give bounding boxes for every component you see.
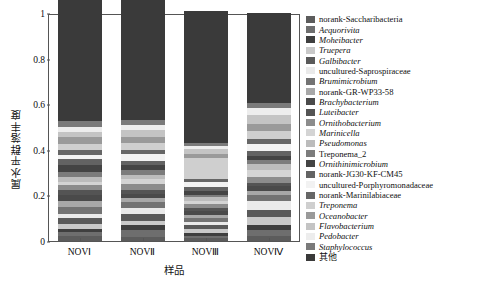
legend-item[interactable]: Truepera: [305, 45, 479, 55]
bar-segment: [247, 108, 291, 115]
plot-area: 属水平群落丰度 00.20.40.60.81 NOVⅠNOVⅡNOVⅢNOVⅣ …: [0, 0, 300, 295]
legend-item[interactable]: norank-GR-WP33-58: [305, 86, 479, 96]
legend-item[interactable]: Brumimicrobium: [305, 76, 479, 86]
x-tick-label: NOVⅣ: [254, 246, 284, 257]
bar-segment: [121, 143, 165, 151]
legend-item[interactable]: Ornithobacterium: [305, 117, 479, 127]
legend-item-label: Galbibacter: [319, 56, 361, 66]
legend-swatch-icon: [306, 119, 315, 126]
legend-item-label: Brumimicrobium: [319, 76, 377, 86]
x-tick-mark: [143, 238, 144, 242]
bar-segment: [247, 13, 291, 103]
legend-swatch-icon: [306, 150, 315, 157]
legend-item-label: Marinicella: [319, 128, 360, 138]
bar-segment: [58, 0, 102, 121]
legend-swatch-icon: [306, 78, 315, 85]
legend-swatch-icon: [306, 16, 315, 23]
legend-item-label: Ornithobacterium: [319, 118, 381, 128]
legend-item-label: norank-Saccharibacteria: [319, 14, 403, 24]
legend-item-label: Pedobacter: [319, 231, 359, 241]
legend-item-label: Aequorivita: [319, 25, 360, 35]
x-tick-mark: [80, 238, 81, 242]
legend-item[interactable]: uncultured-Saprospiraceae: [305, 66, 479, 76]
stacked-bar: [184, 11, 228, 241]
bar-segment: [121, 154, 165, 161]
stacked-bar: [121, 0, 165, 241]
legend-item-label: Staphylococcus: [319, 242, 372, 252]
legend-item-label: norank-Marinilabiaceae: [319, 190, 401, 200]
legend-swatch-icon: [306, 47, 315, 54]
legend-item-label: Moheibacter: [319, 35, 363, 45]
bar-segment: [247, 115, 291, 124]
legend-swatch-icon: [306, 109, 315, 116]
legend-item[interactable]: Ornithinimicrobium: [305, 159, 479, 169]
bar-segment: [247, 217, 291, 225]
y-tick-label: 0.4: [33, 146, 45, 156]
legend-item[interactable]: norank-JG30-KF-CM45: [305, 169, 479, 179]
y-tick-label: 0.2: [33, 191, 45, 201]
chart-figure: 属水平群落丰度 00.20.40.60.81 NOVⅠNOVⅡNOVⅢNOVⅣ …: [0, 0, 479, 295]
legend-swatch-icon: [306, 202, 315, 209]
legend-item[interactable]: Marinicella: [305, 128, 479, 138]
legend-swatch-icon: [306, 212, 315, 219]
legend-item[interactable]: Aequorivita: [305, 24, 479, 34]
y-tick-label: 0.6: [33, 100, 45, 110]
bar-segment: [58, 207, 102, 214]
x-axis-title: 样品: [48, 262, 300, 277]
legend-item-label: norank-JG30-KF-CM45: [319, 169, 403, 179]
x-tick-label: NOVⅡ: [130, 246, 156, 257]
legend-item[interactable]: Oceanobacter: [305, 211, 479, 221]
legend-swatch-icon: [306, 233, 315, 240]
legend-item[interactable]: Pseudomonas: [305, 138, 479, 148]
bar-segment: [121, 214, 165, 222]
bar-segment: [121, 130, 165, 137]
legend-item-label: 其他: [319, 252, 337, 262]
legend-swatch-icon: [306, 98, 315, 105]
legend-item[interactable]: norank-Saccharibacteria: [305, 14, 479, 24]
legend-swatch-icon: [306, 171, 315, 178]
legend-item-label: Oceanobacter: [319, 211, 368, 221]
legend: norank-SaccharibacteriaAequorivitaMoheib…: [305, 14, 479, 262]
legend-item-label: Ornithinimicrobium: [319, 159, 388, 169]
legend-item[interactable]: uncultured-Porphyromonadaceae: [305, 180, 479, 190]
plot-frame: [48, 14, 300, 242]
x-tick-label: NOVⅠ: [68, 246, 92, 257]
bar-segment: [247, 210, 291, 217]
x-tick-mark: [269, 238, 270, 242]
y-tick-label: 0.8: [33, 55, 45, 65]
legend-item[interactable]: Moheibacter: [305, 35, 479, 45]
legend-swatch-icon: [306, 192, 315, 199]
legend-swatch-icon: [306, 36, 315, 43]
axis-right-spine: [299, 14, 300, 242]
bar-segment: [58, 137, 102, 144]
legend-swatch-icon: [306, 88, 315, 95]
legend-item[interactable]: Treponema_2: [305, 148, 479, 158]
legend-item[interactable]: Brachybacterium: [305, 97, 479, 107]
legend-swatch-icon: [306, 140, 315, 147]
y-tick-label: 1: [40, 9, 45, 19]
legend-swatch-icon: [306, 67, 315, 74]
legend-item[interactable]: Galbibacter: [305, 55, 479, 65]
legend-swatch-icon: [306, 181, 315, 188]
legend-swatch-icon: [306, 254, 315, 261]
legend-swatch-icon: [306, 243, 315, 250]
legend-item[interactable]: 其他: [305, 252, 479, 262]
legend-item-label: Flavobacterium: [319, 221, 374, 231]
legend-swatch-icon: [306, 129, 315, 136]
y-axis-ticks: 00.20.40.60.81: [20, 14, 48, 242]
legend-item[interactable]: Treponema: [305, 200, 479, 210]
legend-item-label: Treponema_2: [319, 149, 366, 159]
stacked-bar: [247, 13, 291, 241]
bar-segment: [121, 0, 165, 120]
axis-left-spine: [48, 14, 49, 242]
legend-item[interactable]: Staphylococcus: [305, 242, 479, 252]
bar-segment: [184, 158, 228, 179]
legend-item[interactable]: Luteibacter: [305, 107, 479, 117]
legend-swatch-icon: [306, 160, 315, 167]
bar-segment: [247, 201, 291, 210]
legend-item[interactable]: Pedobacter: [305, 231, 479, 241]
legend-item[interactable]: Flavobacterium: [305, 221, 479, 231]
legend-item[interactable]: norank-Marinilabiaceae: [305, 190, 479, 200]
legend-swatch-icon: [306, 26, 315, 33]
legend-item-label: Luteibacter: [319, 107, 359, 117]
